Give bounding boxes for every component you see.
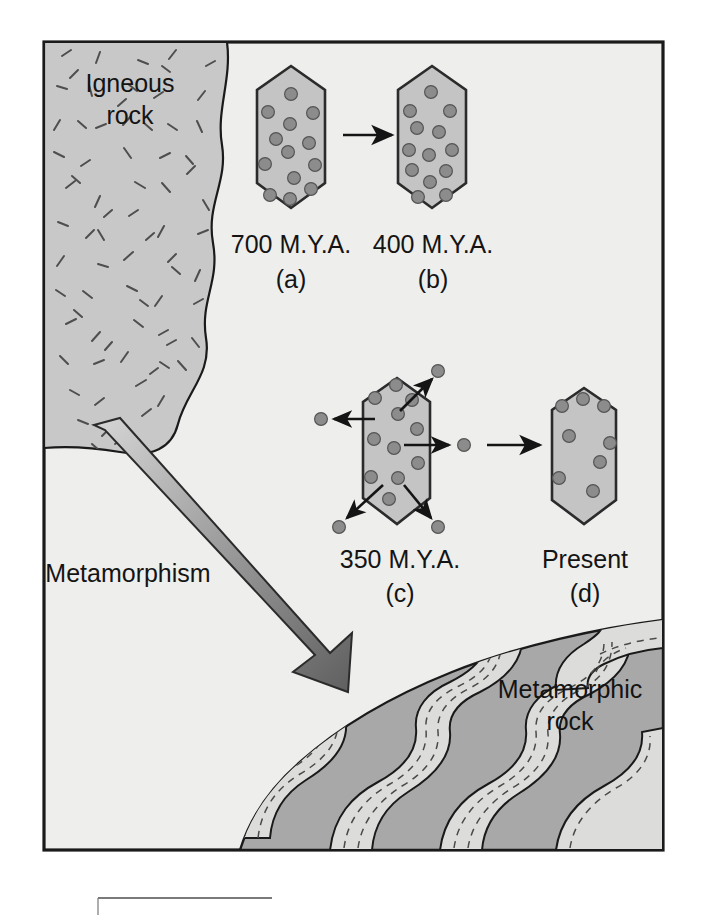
igneous-label-line1: Igneous	[86, 69, 175, 97]
figure-container: Igneous rock Metamorphism	[0, 0, 701, 915]
escaped-atom-right	[458, 439, 471, 452]
panel-label-c: (c)	[385, 579, 414, 607]
escaped-atom-left	[315, 413, 328, 426]
diagram-canvas: Igneous rock Metamorphism	[0, 0, 701, 915]
igneous-label-line2: rock	[106, 101, 154, 129]
time-label-c: 350 M.Y.A.	[340, 545, 460, 573]
time-label-d: Present	[542, 545, 628, 573]
escaped-atom-down-left	[333, 521, 346, 534]
escaped-atom-up-right	[432, 365, 445, 378]
crystal-stage-d	[552, 388, 616, 524]
metamorphic-label-line2: rock	[546, 707, 594, 735]
crystal-stage-a	[257, 66, 325, 208]
crystal-stage-c	[363, 378, 430, 524]
metamorphic-label-line1: Metamorphic	[498, 675, 643, 703]
panel-label-d: (d)	[570, 579, 601, 607]
time-label-a: 700 M.Y.A.	[231, 230, 351, 258]
time-label-b: 400 M.Y.A.	[373, 230, 493, 258]
panel-label-a: (a)	[276, 265, 307, 293]
metamorphism-label: Metamorphism	[45, 559, 210, 587]
escaped-atom-down-right	[432, 521, 445, 534]
crystal-stage-b	[398, 66, 466, 208]
panel-label-b: (b)	[418, 265, 449, 293]
